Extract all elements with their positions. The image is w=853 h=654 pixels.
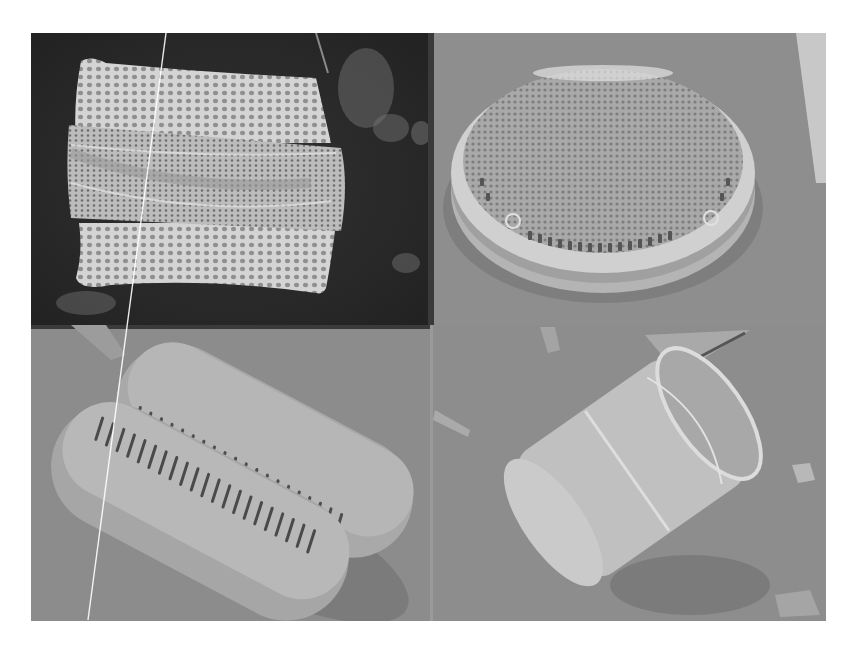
panel-bottom-right-cylindrical-frustule: cylindrical frustule lying on its side s…: [430, 325, 826, 621]
panel-top-left-frustule: rectangular pillow-shaped frustule with …: [31, 33, 428, 325]
pennate-diatom-image: [31, 325, 430, 621]
disc-diatom-image: [428, 33, 826, 325]
panel-top-right-disc-frustule: centric disc-shaped frustule with fine a…: [428, 33, 826, 325]
sem-figure: rectangular pillow-shaped frustule with …: [31, 33, 826, 621]
cylinder-diatom-image: [430, 325, 826, 621]
pillow-diatom-image: [31, 33, 428, 325]
panel-bottom-left-pennate-frustules: paired elongated pennate frustules with …: [31, 325, 430, 621]
